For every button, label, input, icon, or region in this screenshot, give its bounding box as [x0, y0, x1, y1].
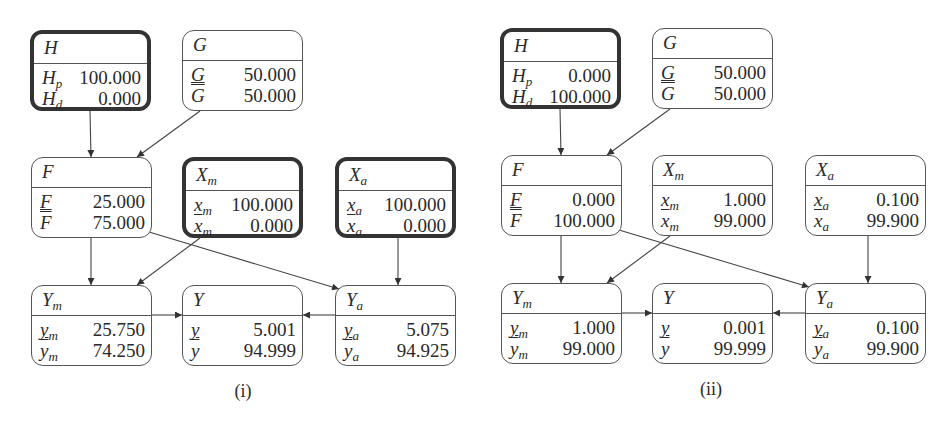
state-row: xm100.000: [194, 194, 293, 216]
state-value: 94.999: [244, 340, 296, 362]
state-label: G: [191, 64, 205, 86]
state-value: 0.100: [876, 317, 919, 339]
node-title-subscript: m: [523, 296, 532, 311]
state-value: 99.000: [563, 338, 615, 360]
edge-xm-to-ym: [137, 238, 200, 285]
state-value: 100.000: [549, 86, 611, 108]
node-xm: Xmxm100.000xm0.000: [182, 157, 303, 238]
node-g: GG50.000G50.000: [182, 30, 303, 111]
node-header: G: [183, 31, 302, 61]
node-ya: Yaya5.075ya94.925: [335, 285, 456, 366]
state-value: 0.000: [403, 215, 446, 237]
node-title-main: X: [349, 164, 361, 185]
state-row: xa0.000: [347, 215, 446, 237]
state-row: F100.000: [510, 210, 615, 232]
node-xm: Xmxm1.000xm99.000: [652, 155, 773, 236]
node-header: Xm: [653, 156, 772, 186]
node-title: Xa: [349, 164, 367, 189]
state-label: y: [191, 340, 199, 362]
node-title: Xa: [816, 159, 834, 184]
node-title-subscript: a: [827, 296, 834, 311]
state-row: xm1.000: [661, 189, 766, 211]
state-label-main: y: [661, 338, 669, 359]
state-label-main: H: [512, 65, 526, 86]
state-row: ym74.250: [40, 340, 145, 362]
node-title-subscript: a: [357, 298, 364, 313]
state-row: y94.999: [191, 340, 296, 362]
node-h: HHp100.000Hd0.000: [30, 30, 151, 111]
state-value: 0.001: [723, 317, 766, 339]
state-label-main: F: [40, 191, 52, 212]
node-title: G: [663, 32, 677, 54]
node-title: Ym: [512, 287, 532, 312]
state-label-main: H: [42, 88, 56, 109]
state-label: ym: [40, 340, 58, 365]
state-value: 25.750: [93, 319, 145, 341]
node-title-main: X: [663, 159, 675, 180]
state-label-subscript: m: [48, 349, 57, 364]
node-title: Ya: [816, 287, 833, 312]
node-title: F: [42, 161, 54, 183]
node-title-main: Y: [346, 289, 357, 310]
state-label-main: G: [191, 85, 205, 106]
state-row: xm99.000: [661, 210, 766, 232]
node-header: Y: [653, 284, 772, 314]
state-row: ya94.925: [344, 340, 449, 362]
state-row: xa99.900: [814, 210, 919, 232]
state-value: 99.900: [867, 338, 919, 360]
node-f: FF0.000F100.000: [501, 155, 622, 236]
node-h: HHp0.000Hd100.000: [500, 28, 621, 109]
node-title-subscript: m: [208, 173, 217, 188]
state-row: ya5.075: [344, 319, 449, 341]
state-row: Hp100.000: [42, 67, 141, 89]
node-header: F: [32, 158, 151, 188]
state-label: xa: [347, 215, 362, 240]
state-value: 100.000: [553, 210, 615, 232]
node-title: F: [512, 159, 524, 181]
state-row: Hp0.000: [512, 65, 611, 87]
state-value: 0.000: [98, 88, 141, 110]
state-label: ya: [344, 340, 359, 365]
node-header: Y: [183, 286, 302, 316]
state-label-subscript: d: [526, 95, 533, 110]
node-title: Ym: [42, 289, 62, 314]
state-label-subscript: a: [355, 224, 362, 239]
state-value: 0.000: [250, 215, 293, 237]
state-row: G50.000: [191, 85, 296, 107]
node-title-main: Y: [42, 289, 53, 310]
state-value: 1.000: [723, 189, 766, 211]
node-header: Ya: [336, 286, 455, 316]
edge-g-to-f: [607, 109, 670, 155]
state-row: G50.000: [661, 62, 766, 84]
state-row: G50.000: [191, 64, 296, 86]
state-value: 50.000: [714, 62, 766, 84]
node-title-main: Y: [663, 287, 674, 308]
state-value: 1.000: [572, 317, 615, 339]
edge-g-to-f: [137, 111, 200, 157]
state-label-main: y: [661, 317, 669, 338]
state-value: 100.000: [79, 67, 141, 89]
state-value: 50.000: [244, 85, 296, 107]
state-label: F: [510, 210, 522, 232]
state-value: 100.000: [384, 194, 446, 216]
state-value: 100.000: [231, 194, 293, 216]
state-value: 5.001: [253, 319, 296, 341]
state-value: 94.925: [397, 340, 449, 362]
node-header: H: [504, 32, 617, 62]
state-row: ya99.900: [814, 338, 919, 360]
node-header: Ym: [502, 284, 621, 314]
state-label: F: [40, 212, 52, 234]
node-title-main: G: [193, 34, 207, 55]
state-value: 0.000: [572, 189, 615, 211]
state-value: 50.000: [244, 64, 296, 86]
state-label-main: G: [661, 83, 675, 104]
state-row: y5.001: [191, 319, 296, 341]
state-label-subscript: m: [202, 224, 211, 239]
state-value: 75.000: [93, 212, 145, 234]
node-title-main: F: [512, 159, 524, 180]
state-row: F25.000: [40, 191, 145, 213]
node-title-main: X: [816, 159, 828, 180]
node-header: Xa: [339, 161, 452, 191]
node-f: FF25.000F75.000: [31, 157, 152, 238]
state-label-main: y: [191, 340, 199, 361]
